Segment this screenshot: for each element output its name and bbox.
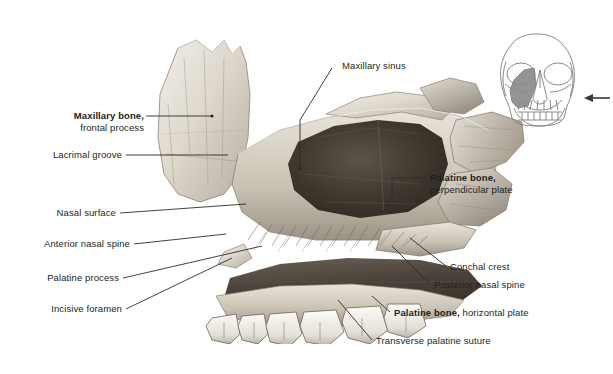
anatomy-figure: Maxillary sinus Maxillary bone, frontal … — [0, 0, 613, 374]
label-transverse-palatine-suture: Transverse palatine suture — [376, 335, 491, 347]
label-lacrimal-groove: Lacrimal groove — [0, 149, 122, 161]
label-maxillary-sinus: Maxillary sinus — [342, 60, 406, 72]
label-palatine-bone-horizontal-plate: Palatine bone, horizontal plate — [394, 307, 529, 319]
label-conchal-crest: Conchal crest — [450, 261, 509, 273]
label-palatine-bone-perpendicular-plate: Palatine bone, perpendicular plate — [430, 172, 513, 196]
label-anterior-nasal-spine: Anterior nasal spine — [0, 238, 130, 250]
label-maxillary-bone-frontal-process: Maxillary bone, frontal process — [0, 110, 144, 134]
label-incisive-foramen: Incisive foramen — [0, 303, 122, 315]
view-direction-arrow — [584, 94, 610, 102]
label-posterior-nasal-spine: Posterior nasal spine — [434, 279, 525, 291]
label-nasal-surface: Nasal surface — [0, 207, 116, 219]
label-palatine-process: Palatine process — [0, 272, 119, 284]
anterior-skull-orientation-diagram — [472, 28, 613, 138]
